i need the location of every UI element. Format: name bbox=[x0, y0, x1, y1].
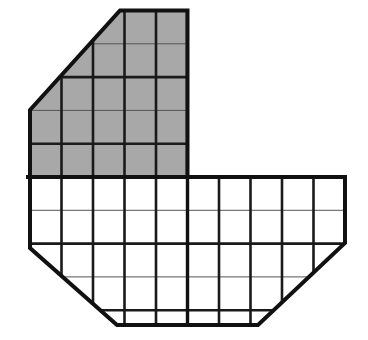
shaded-upper-block-fill bbox=[30, 11, 188, 178]
grid-polygon-figure bbox=[0, 0, 368, 340]
figure-container bbox=[0, 0, 368, 340]
